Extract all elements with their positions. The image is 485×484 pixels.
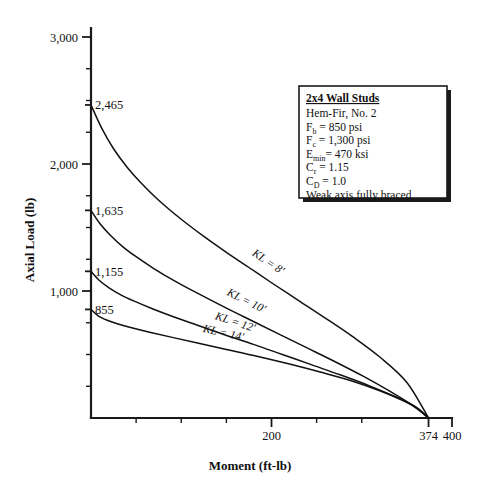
chart-svg: 1,0002,0003,000 200374400 2,4651,6351,15… [0,0,485,484]
curve-start-label: 1,155 [95,265,123,279]
curve-start-label: 1,635 [95,204,123,218]
y-axis-ticks [82,37,91,386]
x-axis-title: Moment (ft-lb) [209,458,292,473]
curve-start-label: 855 [95,303,114,317]
legend-value: = 470 ksi [325,148,368,160]
y-axis-tick-labels: 1,0002,0003,000 [50,31,78,299]
x-axis-tick-labels: 200374400 [262,429,461,443]
interaction-diagram-figure: 1,0002,0003,000 200374400 2,4651,6351,15… [0,0,485,484]
curve-3 [91,271,429,418]
y-tick-label: 2,000 [50,158,78,172]
legend-value: = 1.15 [316,161,349,173]
curve-start-label: 2,465 [95,98,123,112]
x-tick-label: 374 [419,429,439,443]
legend-value: = 1,300 psi [316,134,370,147]
x-axis-ticks [136,418,452,427]
x-tick-label: 200 [262,429,281,443]
legend-line-bracing: Weak axis fully braced [306,189,412,202]
legend-line-species: Hem-Fir, No. 2 [306,107,377,120]
legend-value: = 1.0 [319,175,346,187]
legend-value: = 850 psi [316,121,362,134]
y-tick-label: 3,000 [50,31,78,45]
info-legend-box: 2x4 Wall Studs Hem-Fir, No. 2Fb = 850 ps… [299,86,451,202]
y-axis-title: Axial Load (lb) [22,198,37,283]
y-tick-label: 1,000 [50,285,78,299]
curve-inline-labels: KL = 8'KL = 10'KL = 12'KL = 14' [201,246,287,343]
curve-4 [91,309,429,418]
curve-2 [91,210,429,418]
legend-title: 2x4 Wall Studs [306,92,380,104]
x-tick-label: 400 [443,429,462,443]
legend-symbol: E [306,148,313,160]
